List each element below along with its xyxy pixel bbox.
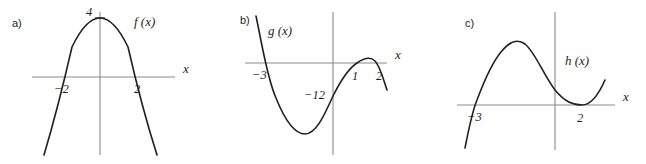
panel-letter-c: c) [465,17,474,29]
label-y-intercept: −12 [304,88,325,102]
label-root-mid: 1 [352,69,358,83]
label-vertex-value: 4 [86,5,92,19]
panel-c: c) h (x) −3 2 x [425,0,646,164]
function-label-h: h (x) [565,53,589,68]
x-axis-label: x [622,89,629,104]
label-root-right: 2 [376,69,382,83]
panel-b: b) g (x) −3 −12 1 2 x [212,0,422,164]
label-root-left: −2 [54,82,69,96]
label-root-left: −3 [252,68,267,82]
x-axis-label: x [182,61,189,76]
function-label-g: g (x) [268,23,292,38]
panel-letter-a: a) [12,17,22,29]
panel-a: a) 4 −2 2 f (x) x [0,0,215,164]
x-axis-label: x [394,47,401,62]
label-root-left: −3 [467,110,482,124]
label-root-double: 2 [577,111,583,125]
label-root-right: 2 [134,82,140,96]
panel-letter-b: b) [240,14,250,26]
function-label-f: f (x) [134,14,155,29]
math-figure: a) 4 −2 2 f (x) x b) g (x) −3 −12 1 2 x [0,0,646,164]
